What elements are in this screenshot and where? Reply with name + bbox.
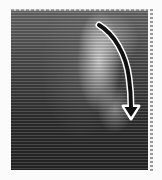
curved-arrow-down-icon [0, 0, 162, 180]
